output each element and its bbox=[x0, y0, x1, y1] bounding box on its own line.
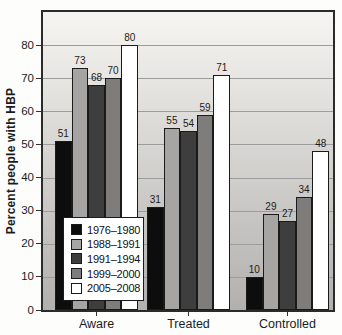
swatch-icon bbox=[71, 239, 82, 250]
bar-value-label: 70 bbox=[108, 65, 119, 76]
y-tick-mark bbox=[36, 210, 41, 211]
x-tick-mark bbox=[188, 312, 189, 316]
category-label: Aware bbox=[79, 317, 114, 331]
legend-label: 1991–1994 bbox=[87, 253, 140, 265]
legend-label: 2005–2008 bbox=[87, 282, 140, 294]
legend-item: 2005–2008 bbox=[71, 282, 143, 294]
bar-value-label: 48 bbox=[315, 138, 326, 149]
y-tick-mark bbox=[36, 144, 41, 145]
bar-value-label: 68 bbox=[91, 72, 102, 83]
legend-item: 1976–1980 bbox=[71, 224, 143, 236]
bar bbox=[164, 128, 181, 310]
y-tick-label: 40 bbox=[0, 171, 34, 184]
bar-value-label: 10 bbox=[249, 264, 260, 275]
legend-box: 1976–19801988–19911991–19941999–20002005… bbox=[63, 217, 144, 301]
bar bbox=[312, 151, 329, 310]
bar-value-label: 55 bbox=[166, 115, 177, 126]
bar-value-label: 29 bbox=[265, 201, 276, 212]
bar-value-label: 31 bbox=[150, 194, 161, 205]
swatch-icon bbox=[71, 268, 82, 279]
bar bbox=[180, 131, 197, 310]
bar-value-label: 80 bbox=[124, 32, 135, 43]
bar bbox=[147, 207, 164, 310]
legend-item: 1988–1991 bbox=[71, 238, 143, 250]
bar-value-label: 27 bbox=[282, 208, 293, 219]
y-tick-mark bbox=[36, 78, 41, 79]
plot-area: 5173687080315554597110292734481976–19801… bbox=[41, 10, 335, 312]
legend-label: 1988–1991 bbox=[87, 238, 140, 250]
bar-value-label: 54 bbox=[183, 118, 194, 129]
bar bbox=[246, 277, 263, 310]
bar-value-label: 73 bbox=[74, 55, 85, 66]
y-tick-mark bbox=[36, 310, 41, 311]
category-label: Treated bbox=[167, 317, 210, 331]
legend-label: 1976–1980 bbox=[87, 224, 140, 236]
y-tick-mark bbox=[36, 45, 41, 46]
category-label: Controlled bbox=[259, 317, 316, 331]
y-tick-label: 20 bbox=[0, 237, 34, 250]
y-tick-mark bbox=[36, 276, 41, 277]
bar bbox=[197, 115, 214, 310]
y-tick-mark bbox=[36, 243, 41, 244]
bar bbox=[296, 197, 313, 310]
gridline bbox=[43, 45, 333, 46]
y-tick-mark bbox=[36, 111, 41, 112]
y-tick-label: 60 bbox=[0, 105, 34, 118]
y-tick-label: 10 bbox=[0, 270, 34, 283]
y-tick-label: 80 bbox=[0, 39, 34, 52]
legend-label: 1999–2000 bbox=[87, 268, 140, 280]
legend-item: 1991–1994 bbox=[71, 253, 143, 265]
swatch-icon bbox=[71, 224, 82, 235]
bar-value-label: 71 bbox=[216, 62, 227, 73]
y-tick-mark bbox=[36, 177, 41, 178]
swatch-icon bbox=[71, 253, 82, 264]
white-swatch-icon bbox=[71, 283, 82, 294]
bar bbox=[263, 214, 280, 310]
bar bbox=[213, 75, 230, 310]
bar bbox=[279, 221, 296, 310]
bar-value-label: 59 bbox=[200, 102, 211, 113]
hbp-bar-chart-figure: Percent people with HBP 5173687080315554… bbox=[0, 0, 342, 335]
x-tick-mark bbox=[287, 312, 288, 316]
bar-value-label: 34 bbox=[299, 184, 310, 195]
y-tick-label: 50 bbox=[0, 138, 34, 151]
y-tick-label: 30 bbox=[0, 204, 34, 217]
y-tick-label: 70 bbox=[0, 72, 34, 85]
legend-item: 1999–2000 bbox=[71, 268, 143, 280]
y-tick-label: 0 bbox=[0, 304, 34, 317]
x-tick-mark bbox=[96, 312, 97, 316]
bar-value-label: 51 bbox=[58, 128, 69, 139]
